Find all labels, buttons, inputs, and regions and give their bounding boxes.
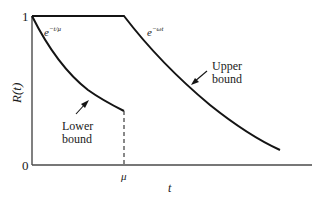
y-tick-1: 1 <box>22 9 29 24</box>
y-axis-label: R(t) <box>9 83 24 104</box>
upper-formula-label: e−ωt <box>147 25 165 38</box>
y-tick-0: 0 <box>22 158 29 173</box>
x-axis-label: t <box>168 181 172 195</box>
reliability-bounds-chart: 1 0 R(t) μ t e−t/μ e−ωt Lower bound Uppe… <box>0 0 322 200</box>
chart-canvas: 1 0 R(t) μ t e−t/μ e−ωt Lower bound Uppe… <box>0 0 322 200</box>
upper-bound-label-line1: Upper <box>212 59 242 73</box>
lower-formula-label: e−t/μ <box>44 25 62 38</box>
x-tick-mu: μ <box>120 170 127 182</box>
upper-bound-label-line2: bound <box>212 72 242 86</box>
lower-bound-label-line2: bound <box>62 132 92 146</box>
lower-bound-label-line1: Lower <box>62 119 93 133</box>
